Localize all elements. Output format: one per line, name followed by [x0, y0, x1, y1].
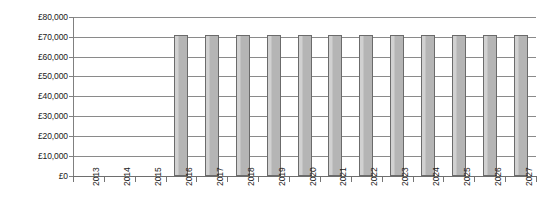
x-axis-label: 2021 — [339, 167, 348, 186]
bar — [174, 35, 188, 176]
x-tick-mark — [505, 177, 506, 182]
x-axis-label: 2019 — [278, 167, 287, 186]
x-tick-mark — [196, 177, 197, 182]
bar — [267, 35, 281, 176]
x-tick-mark — [73, 177, 74, 182]
x-axis-label: 2016 — [185, 167, 194, 186]
bar — [298, 35, 312, 176]
x-axis-label: 2013 — [92, 167, 101, 186]
x-axis-label: 2023 — [401, 167, 410, 186]
x-tick-mark — [166, 177, 167, 182]
x-axis-label: 2024 — [432, 167, 441, 186]
y-axis-label: £70,000 — [2, 33, 68, 42]
x-axis-label: 2026 — [494, 167, 503, 186]
y-axis-label: £50,000 — [2, 72, 68, 81]
y-axis-label: £0 — [2, 172, 68, 181]
y-axis-label: £20,000 — [2, 132, 68, 141]
bars-layer — [73, 17, 536, 176]
x-tick-mark — [351, 177, 352, 182]
bar — [514, 35, 528, 176]
x-tick-mark — [413, 177, 414, 182]
bar — [236, 35, 250, 176]
x-tick-mark — [382, 177, 383, 182]
x-axis-label: 2020 — [309, 167, 318, 186]
bar-chart: £80,000 £70,000 £60,000 £50,000 £40,000 … — [0, 0, 550, 224]
bar — [452, 35, 466, 176]
y-axis-label: £80,000 — [2, 13, 68, 22]
y-axis-labels: £80,000 £70,000 £60,000 £50,000 £40,000 … — [0, 0, 68, 224]
x-tick-mark — [536, 177, 537, 182]
x-tick-mark — [258, 177, 259, 182]
x-axis-label: 2015 — [154, 167, 163, 186]
x-tick-mark — [104, 177, 105, 182]
bar — [328, 35, 342, 176]
x-tick-mark — [227, 177, 228, 182]
x-tick-mark — [289, 177, 290, 182]
y-axis-label: £30,000 — [2, 112, 68, 121]
x-tick-mark — [135, 177, 136, 182]
bar — [483, 35, 497, 176]
x-tick-mark — [443, 177, 444, 182]
x-axis-label: 2022 — [370, 167, 379, 186]
x-tick-mark — [474, 177, 475, 182]
bar — [421, 35, 435, 176]
y-axis-label: £40,000 — [2, 92, 68, 101]
y-axis-label: £10,000 — [2, 152, 68, 161]
bar — [390, 35, 404, 176]
y-axis-label: £60,000 — [2, 53, 68, 62]
x-axis-label: 2014 — [123, 167, 132, 186]
x-tick-mark — [320, 177, 321, 182]
bar — [205, 35, 219, 176]
x-axis-label: 2027 — [525, 167, 534, 186]
bar — [359, 35, 373, 176]
x-axis-label: 2025 — [463, 167, 472, 186]
x-axis-label: 2017 — [216, 167, 225, 186]
x-axis-label: 2018 — [247, 167, 256, 186]
